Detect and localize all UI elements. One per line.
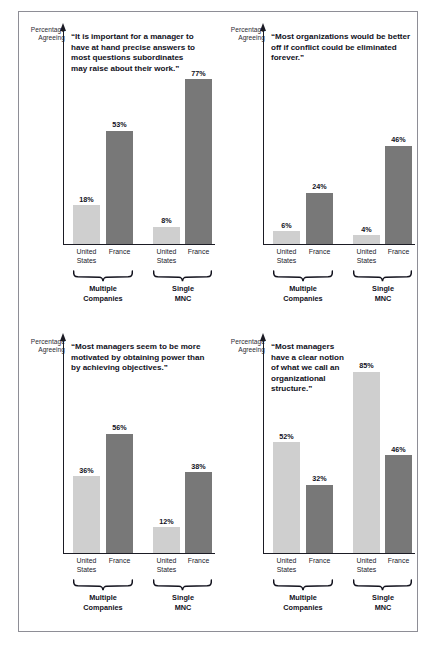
group-label-0: MultipleCompanies bbox=[69, 593, 137, 613]
group-label-line2: MNC bbox=[352, 603, 414, 613]
category-label-line1: United bbox=[347, 556, 386, 565]
bar-value-label: 77% bbox=[191, 69, 205, 78]
bar-united-states-0: 18% bbox=[73, 205, 100, 244]
category-label-3: France bbox=[382, 556, 415, 565]
category-labels: UnitedStatesFranceUnitedStatesFrance bbox=[264, 556, 415, 578]
bar-value-label: 38% bbox=[191, 462, 205, 471]
x-axis-line bbox=[63, 553, 215, 554]
group-label-0: MultipleCompanies bbox=[269, 593, 337, 613]
group-braces bbox=[264, 270, 415, 284]
category-labels: UnitedStatesFranceUnitedStatesFrance bbox=[64, 247, 215, 269]
group-label-line1: Multiple bbox=[69, 593, 137, 603]
group-label-line2: MNC bbox=[152, 294, 214, 304]
chart-panel-2: Percentage Agreeing “Most organizations … bbox=[219, 12, 419, 324]
category-label-line2: States bbox=[147, 565, 186, 574]
bar-united-states-0: 6% bbox=[273, 231, 300, 244]
group-labels: MultipleCompaniesSingleMNC bbox=[64, 593, 215, 617]
category-label-2: UnitedStates bbox=[147, 556, 186, 574]
category-label-line2: States bbox=[347, 256, 386, 265]
category-label-line1: United bbox=[67, 247, 106, 256]
bar-value-label: 8% bbox=[161, 216, 171, 225]
bar-united-states-2: 85% bbox=[353, 372, 380, 553]
category-label-line1: United bbox=[267, 247, 306, 256]
group-label-line2: MNC bbox=[152, 603, 214, 613]
group-label-line1: Multiple bbox=[269, 284, 337, 294]
group-brace-icon-0 bbox=[273, 579, 333, 591]
group-brace-icon-1 bbox=[353, 579, 412, 591]
bar-value-label: 52% bbox=[279, 432, 293, 441]
y-axis-label-line2: Agreeing bbox=[221, 34, 265, 42]
category-label-2: UnitedStates bbox=[147, 247, 186, 265]
group-braces bbox=[264, 579, 415, 593]
bar-value-label: 32% bbox=[312, 474, 326, 483]
category-label-line2: States bbox=[67, 565, 106, 574]
y-axis-label: Percentage Agreeing bbox=[21, 338, 65, 355]
bar-united-states-2: 8% bbox=[153, 227, 180, 244]
group-label-line2: Companies bbox=[69, 294, 137, 304]
group-brace-icon-1 bbox=[353, 270, 412, 282]
bar-france-3: 46% bbox=[385, 455, 412, 553]
plot-area: 36%56%12%38% bbox=[64, 340, 215, 553]
group-label-line1: Single bbox=[352, 284, 414, 294]
group-label-1: SingleMNC bbox=[352, 284, 414, 304]
category-label-0: UnitedStates bbox=[267, 247, 306, 265]
bar-france-1: 53% bbox=[106, 131, 133, 244]
group-label-1: SingleMNC bbox=[352, 593, 414, 613]
group-braces bbox=[64, 270, 215, 284]
chart-panel-4: Percentage Agreeing “Most managers have … bbox=[219, 324, 419, 633]
bar-value-label: 12% bbox=[159, 517, 173, 526]
plot-area: 52%32%85%46% bbox=[264, 340, 415, 553]
bar-value-label: 18% bbox=[79, 195, 93, 204]
group-brace-icon-0 bbox=[73, 270, 133, 282]
group-brace-icon-1 bbox=[153, 270, 212, 282]
category-label-line2: States bbox=[267, 565, 306, 574]
category-label-line1: France bbox=[103, 556, 136, 565]
group-label-0: MultipleCompanies bbox=[269, 284, 337, 304]
x-axis-line bbox=[263, 553, 415, 554]
category-labels: UnitedStatesFranceUnitedStatesFrance bbox=[64, 556, 215, 578]
y-axis-label: Percentage Agreeing bbox=[221, 338, 265, 355]
category-label-line1: France bbox=[103, 247, 136, 256]
group-label-1: SingleMNC bbox=[152, 593, 214, 613]
bar-value-label: 36% bbox=[79, 466, 93, 475]
bar-value-label: 24% bbox=[312, 182, 326, 191]
category-label-0: UnitedStates bbox=[67, 556, 106, 574]
group-brace-icon-0 bbox=[73, 579, 133, 591]
chart-panel-1: Percentage Agreeing “It is important for… bbox=[19, 12, 219, 324]
y-axis-label-line1: Percentage bbox=[21, 338, 65, 346]
group-brace-icon-1 bbox=[153, 579, 212, 591]
group-label-line2: MNC bbox=[352, 294, 414, 304]
bar-france-3: 77% bbox=[185, 79, 212, 244]
bar-value-label: 4% bbox=[361, 225, 371, 234]
y-axis-label: Percentage Agreeing bbox=[21, 26, 65, 43]
category-label-line1: United bbox=[67, 556, 106, 565]
category-label-line2: States bbox=[267, 256, 306, 265]
bar-united-states-0: 36% bbox=[73, 476, 100, 553]
y-axis-label-line1: Percentage bbox=[221, 26, 265, 34]
category-label-line1: France bbox=[303, 556, 336, 565]
group-label-line2: Companies bbox=[269, 603, 337, 613]
bar-united-states-2: 12% bbox=[153, 527, 180, 553]
bar-france-1: 24% bbox=[306, 193, 333, 244]
category-label-2: UnitedStates bbox=[347, 247, 386, 265]
category-label-1: France bbox=[103, 247, 136, 256]
category-label-1: France bbox=[303, 247, 336, 256]
category-label-3: France bbox=[182, 556, 215, 565]
bar-france-1: 32% bbox=[306, 485, 333, 553]
category-label-3: France bbox=[382, 247, 415, 256]
category-label-line1: France bbox=[182, 247, 215, 256]
group-label-1: SingleMNC bbox=[152, 284, 214, 304]
category-label-line1: France bbox=[182, 556, 215, 565]
bar-france-3: 38% bbox=[185, 472, 212, 553]
bar-france-1: 56% bbox=[106, 434, 133, 553]
plot-area: 18%53%8%77% bbox=[64, 30, 215, 244]
x-axis-line bbox=[63, 244, 215, 245]
category-label-line1: France bbox=[303, 247, 336, 256]
group-label-line1: Multiple bbox=[69, 284, 137, 294]
group-labels: MultipleCompaniesSingleMNC bbox=[264, 284, 415, 308]
group-label-0: MultipleCompanies bbox=[69, 284, 137, 304]
x-axis-line bbox=[263, 244, 415, 245]
y-axis-label-line2: Agreeing bbox=[21, 346, 65, 354]
category-label-0: UnitedStates bbox=[67, 247, 106, 265]
category-label-line1: France bbox=[382, 556, 415, 565]
